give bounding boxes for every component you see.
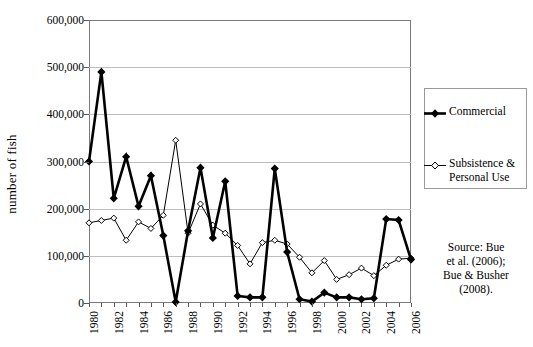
x-tick-mark: [275, 303, 276, 307]
data-point-marker: [123, 154, 129, 160]
data-point-marker: [86, 220, 92, 226]
data-point-marker: [98, 69, 104, 75]
y-tick-label: 500,000: [22, 61, 84, 73]
x-tick-mark: [312, 303, 313, 307]
y-tick-label: 0: [22, 297, 84, 309]
x-tick-mark: [262, 303, 263, 307]
data-point-marker: [272, 237, 278, 243]
x-tick-label: 1994: [261, 311, 273, 334]
x-tick-label: 2004: [385, 311, 397, 334]
x-tick-mark: [238, 303, 239, 307]
y-tick-mark: [84, 162, 89, 163]
y-tick-mark: [84, 114, 89, 115]
x-tick-mark: [188, 303, 189, 307]
x-tick-mark: [349, 303, 350, 307]
subsistence-line-swatch: [422, 159, 448, 172]
x-tick-mark: [89, 303, 90, 307]
x-tick-mark: [213, 303, 214, 307]
data-point-marker: [247, 261, 253, 267]
x-axis-tick-labels: 1980198219841986198819901992199419961998…: [89, 303, 411, 347]
series-line-subsistence: [89, 140, 411, 279]
data-point-marker: [284, 249, 290, 255]
x-tick-label: 1998: [311, 311, 323, 334]
x-tick-label: 1982: [113, 311, 125, 334]
y-tick-label: 300,000: [22, 156, 84, 168]
x-tick-label: 1984: [138, 311, 150, 334]
source-note: Source: Bue et al. (2006); Bue & Busher …: [420, 240, 532, 296]
y-tick-mark: [84, 256, 89, 257]
x-tick-label: 1992: [237, 311, 249, 334]
x-tick-mark: [200, 303, 201, 307]
series-lines: [89, 20, 411, 303]
legend-label-subsistence: Subsistence & Personal Use: [449, 157, 515, 184]
commercial-line-swatch: [422, 107, 448, 120]
y-tick-mark: [84, 67, 89, 68]
x-tick-mark: [411, 303, 412, 307]
data-point-marker: [222, 178, 228, 184]
x-tick-label: 1986: [162, 311, 174, 334]
x-tick-label: 2006: [410, 311, 422, 334]
x-tick-mark: [176, 303, 177, 307]
data-point-marker: [197, 201, 203, 207]
data-point-marker: [136, 219, 142, 225]
data-point-marker: [210, 235, 216, 241]
data-point-marker: [98, 217, 104, 223]
data-point-marker: [371, 295, 377, 301]
data-point-marker: [259, 294, 265, 300]
data-point-marker: [247, 294, 253, 300]
data-point-marker: [111, 195, 117, 201]
y-tick-mark: [84, 303, 89, 304]
x-tick-mark: [250, 303, 251, 307]
data-point-marker: [346, 272, 352, 278]
data-point-marker: [346, 294, 352, 300]
data-point-marker: [296, 296, 302, 302]
data-point-marker: [235, 293, 241, 299]
y-axis-title-text: number of fish: [4, 134, 20, 213]
x-tick-mark: [399, 303, 400, 307]
fish-harvest-chart: number of fish 0100,000200,000300,000400…: [0, 0, 533, 347]
y-tick-label: 600,000: [22, 14, 84, 26]
data-point-marker: [123, 237, 129, 243]
y-tick-label: 200,000: [22, 203, 84, 215]
data-point-marker: [259, 240, 265, 246]
data-point-marker: [334, 276, 340, 282]
data-point-marker: [396, 256, 402, 262]
x-tick-mark: [300, 303, 301, 307]
x-tick-label: 1996: [286, 311, 298, 334]
y-tick-label: 400,000: [22, 108, 84, 120]
chart-legend: Commercial Subsistence & Personal Use: [424, 88, 527, 189]
x-tick-label: 1988: [187, 311, 199, 334]
x-tick-mark: [225, 303, 226, 307]
x-tick-label: 2002: [360, 311, 372, 334]
data-point-marker: [396, 217, 402, 223]
legend-item-commercial: Commercial: [425, 105, 526, 120]
x-tick-mark: [361, 303, 362, 307]
y-tick-mark: [84, 209, 89, 210]
data-point-marker: [358, 296, 364, 302]
x-tick-mark: [151, 303, 152, 307]
x-tick-label: 1980: [88, 311, 100, 334]
y-axis-tick-labels: 0100,000200,000300,000400,000500,000600,…: [20, 20, 84, 303]
data-point-marker: [272, 165, 278, 171]
x-tick-mark: [324, 303, 325, 307]
x-tick-mark: [101, 303, 102, 307]
x-tick-mark: [139, 303, 140, 307]
data-point-marker: [383, 216, 389, 222]
data-point-marker: [111, 215, 117, 221]
x-tick-mark: [114, 303, 115, 307]
data-point-marker: [173, 137, 179, 143]
x-tick-label: 1990: [212, 311, 224, 334]
data-point-marker: [197, 165, 203, 171]
x-tick-mark: [337, 303, 338, 307]
plot-area: [89, 20, 411, 303]
x-tick-mark: [386, 303, 387, 307]
data-point-marker: [160, 232, 166, 238]
x-tick-label: 2000: [336, 311, 348, 334]
x-tick-mark: [126, 303, 127, 307]
y-tick-mark: [84, 20, 89, 21]
x-tick-mark: [374, 303, 375, 307]
data-point-marker: [358, 265, 364, 271]
y-tick-label: 100,000: [22, 250, 84, 262]
legend-label-commercial: Commercial: [449, 105, 506, 119]
x-tick-mark: [163, 303, 164, 307]
